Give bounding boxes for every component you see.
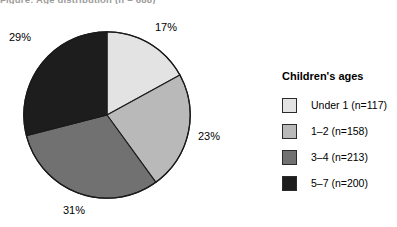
pie-label-3: 29%: [9, 32, 31, 43]
legend: Children's ages Under 1 (n=117) 1–2 (n=1…: [282, 70, 394, 196]
legend-item-5-7: 5–7 (n=200): [282, 170, 394, 196]
figure-title-cropped: Figure: Age distribution (n = 688): [0, 0, 397, 4]
figure-container: Figure: Age distribution (n = 688) 17% 2…: [0, 0, 397, 227]
legend-label-2: 3–4 (n=213): [311, 152, 368, 163]
legend-swatch-3: [282, 176, 297, 191]
legend-swatch-0: [282, 98, 297, 113]
legend-swatch-1: [282, 124, 297, 139]
pie-label-2: 31%: [63, 205, 85, 216]
pie-label-0: 17%: [155, 22, 177, 33]
legend-item-3-4: 3–4 (n=213): [282, 144, 394, 170]
legend-label-0: Under 1 (n=117): [311, 100, 387, 111]
legend-swatch-2: [282, 150, 297, 165]
legend-item-1-2: 1–2 (n=158): [282, 118, 394, 144]
pie-svg: [23, 31, 191, 199]
pie-chart: [23, 31, 191, 199]
legend-title: Children's ages: [282, 70, 394, 82]
pie-label-1: 23%: [198, 131, 220, 142]
legend-label-1: 1–2 (n=158): [311, 126, 368, 137]
legend-label-3: 5–7 (n=200): [311, 178, 368, 189]
legend-item-under-1: Under 1 (n=117): [282, 92, 394, 118]
